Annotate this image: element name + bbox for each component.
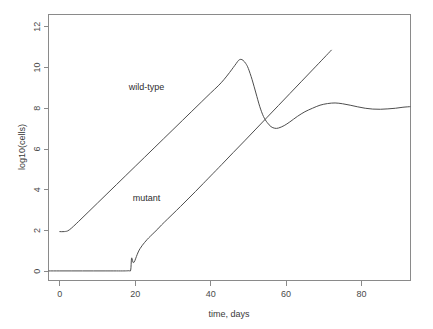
x-tick-label: 80 <box>356 289 366 299</box>
annotation-label-wild-type: wild-type <box>128 82 165 92</box>
series-line-wild-type <box>60 59 411 231</box>
y-axis-ticks: 024681012 <box>32 22 49 274</box>
annotation-label-mutant: mutant <box>133 193 161 203</box>
x-axis-ticks: 020406080 <box>57 281 366 299</box>
y-tick-label: 4 <box>32 187 42 192</box>
plot-frame <box>49 15 411 281</box>
x-tick-label: 60 <box>281 289 291 299</box>
x-axis-title: time, days <box>208 309 250 319</box>
series-line-mutant <box>49 50 332 271</box>
y-tick-label: 12 <box>32 22 42 32</box>
y-axis-title: log10(cells) <box>17 124 27 170</box>
y-tick-label: 6 <box>32 147 42 152</box>
x-tick-label: 40 <box>206 289 216 299</box>
y-tick-label: 0 <box>32 269 42 274</box>
x-tick-label: 0 <box>57 289 62 299</box>
series-annotations: wild-typemutant <box>128 82 165 203</box>
chart-figure: 020406080 024681012 wild-typemutant time… <box>0 0 433 329</box>
chart-canvas: 020406080 024681012 wild-typemutant time… <box>0 0 433 329</box>
y-tick-label: 10 <box>32 62 42 72</box>
y-tick-label: 2 <box>32 228 42 233</box>
y-tick-label: 8 <box>32 106 42 111</box>
data-series-group <box>49 50 411 271</box>
x-tick-label: 20 <box>130 289 140 299</box>
